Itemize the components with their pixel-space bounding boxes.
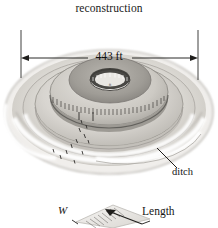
figure-title: reconstruction <box>0 3 218 15</box>
reconstruction-figure: ft <box>0 0 218 228</box>
inset-dimension-diagram <box>72 205 150 228</box>
inset-width-label: W <box>58 205 67 216</box>
dimension-label: 443 ft <box>0 51 218 63</box>
central-post-circle: ft <box>90 68 130 91</box>
ditch-callout-label: ditch <box>172 167 193 178</box>
earthwork-illustration: ft <box>0 0 218 228</box>
inset-length-label: Length <box>142 206 175 218</box>
inset-length-leader <box>142 221 150 224</box>
